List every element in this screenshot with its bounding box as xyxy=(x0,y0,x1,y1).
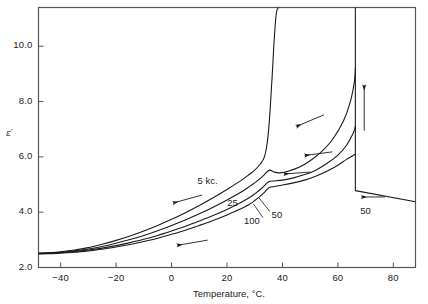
y-axis-title: ε′ xyxy=(6,128,13,138)
y-tick-label: 2.0 xyxy=(0,261,33,272)
curve-label-25: 25 xyxy=(193,197,273,208)
arrow-lowfreq-left xyxy=(177,240,207,245)
axis-ticks xyxy=(39,46,394,267)
curve-50 xyxy=(39,126,356,253)
curve-label-100: 100 xyxy=(212,215,292,226)
y-tick-label: 4.0 xyxy=(0,205,33,216)
curve-label-50: 50 xyxy=(326,205,406,216)
chart-canvas xyxy=(0,0,428,304)
plot-frame xyxy=(39,8,416,268)
dielectric-constant-vs-temperature-chart: −40−200204060802.04.06.08.010.0Temperatu… xyxy=(0,0,428,304)
y-tick-label: 10.0 xyxy=(0,39,33,50)
x-axis-title: Temperature, °C. xyxy=(0,288,428,299)
arrow-upper-left-1 xyxy=(296,115,324,127)
x-tick-label: 80 xyxy=(353,272,428,283)
y-tick-label: 6.0 xyxy=(0,150,33,161)
y-tick-label: 8.0 xyxy=(0,95,33,106)
curve-25 xyxy=(39,68,356,253)
curve-label-5-kc-: 5 kc. xyxy=(168,175,248,186)
